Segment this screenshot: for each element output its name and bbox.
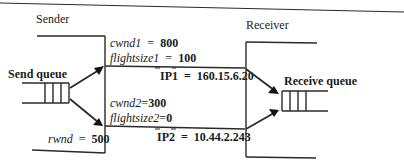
path1-cwnd-equals: = <box>147 36 154 50</box>
rwnd-text: rwnd = 500 <box>48 132 109 146</box>
send-queue-icon <box>22 83 69 103</box>
path2-cwnd-value: 300 <box>148 96 166 110</box>
multipath-transfer-diagram: Sender Send queue <box>0 0 404 167</box>
rwnd-label: rwnd <box>48 132 74 146</box>
receiver-title: Receiver <box>246 18 289 32</box>
path1-flightsize-equals: = <box>165 51 172 65</box>
send-queue-label: Send queue <box>8 67 68 81</box>
path2-ip-equals: = <box>181 130 188 144</box>
path2-cwnd: cwnd2=300 <box>110 96 166 110</box>
path1-ip-equals: = <box>184 69 191 83</box>
path1-ip: IP1 = 160.15.6.20 <box>160 69 254 83</box>
path1-cwnd-value: 800 <box>160 36 178 50</box>
sender-title: Sender <box>36 12 69 26</box>
path1-flightsize-value: 100 <box>178 51 196 65</box>
path1-flightsize: flightsize1 = 100 <box>110 51 196 65</box>
arrow-to-path1-icon <box>70 66 104 88</box>
rwnd-equals: = <box>79 132 86 146</box>
path1-ip-value: 160.15.6.20 <box>197 69 254 83</box>
receive-queue-icon <box>282 91 328 111</box>
receive-queue-label: Receive queue <box>284 74 358 88</box>
path2-flightsize-value: 0 <box>166 111 172 125</box>
top-border-line <box>0 3 404 12</box>
path2-cwnd-label: cwnd2 <box>110 96 141 110</box>
arrow-to-path2-icon <box>70 99 103 126</box>
path2-ip: IP2 = 10.44.2.243 <box>157 130 251 144</box>
path1-ip-label: IP1 <box>160 69 178 83</box>
path1-flightsize-label: flightsize1 <box>110 51 159 65</box>
path1-cwnd: cwnd1 = 800 <box>110 36 178 50</box>
rwnd-value: 500 <box>91 132 109 146</box>
path2-flightsize-label: flightsize2 <box>110 111 159 125</box>
path2-flightsize: flightsize2=0 <box>110 111 172 125</box>
path2-ip-value: 10.44.2.243 <box>194 130 251 144</box>
arrow-from-path2-icon <box>246 109 279 129</box>
path1-cwnd-label: cwnd1 <box>110 36 141 50</box>
path2-ip-label: IP2 <box>157 130 175 144</box>
